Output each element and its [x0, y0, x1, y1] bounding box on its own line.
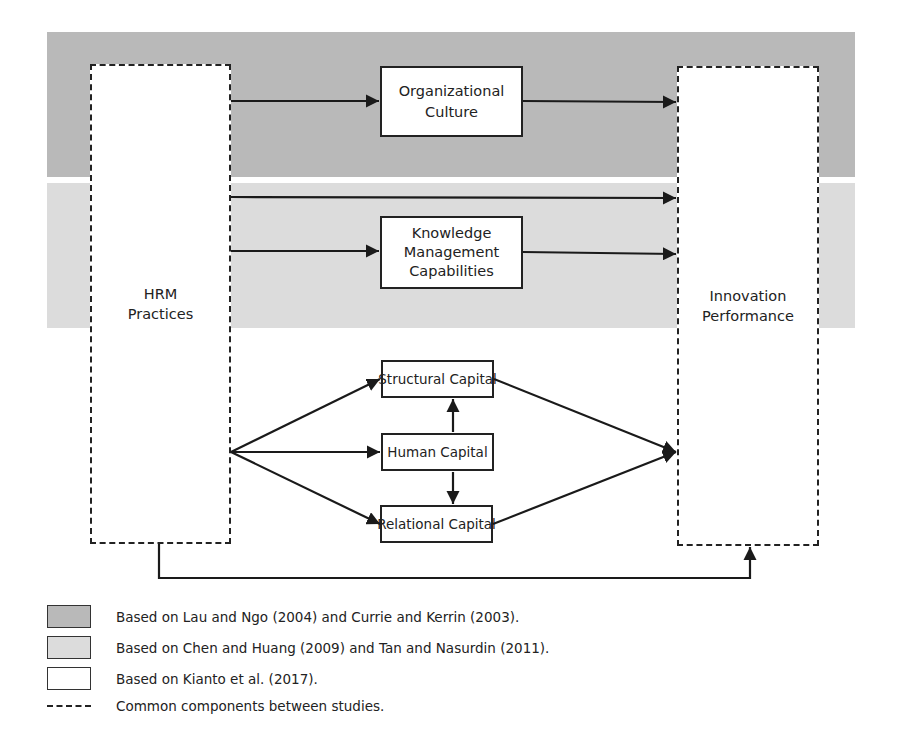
- legend-swatch-light-gray: [47, 636, 91, 659]
- legend: Based on Lau and Ngo (2004) and Currie a…: [47, 604, 549, 721]
- arrow-km-to-innovation: [523, 252, 676, 254]
- arrow-culture-to-innovation: [523, 101, 676, 102]
- legend-dashed-line-sample: [47, 705, 91, 707]
- legend-item-dark-gray: Based on Lau and Ngo (2004) and Currie a…: [47, 604, 549, 629]
- legend-text: Common components between studies.: [116, 698, 384, 714]
- legend-item-white: Based on Kianto et al. (2017).: [47, 666, 549, 691]
- arrow-hrm-to-structural: [231, 379, 380, 452]
- arrow-structural-to-innovation: [494, 379, 676, 452]
- arrow-hrm-to-innovation-direct: [231, 197, 676, 198]
- arrow-hrm-to-relational: [231, 452, 380, 524]
- legend-text: Based on Kianto et al. (2017).: [116, 671, 318, 687]
- legend-item-dashed: Common components between studies.: [47, 697, 549, 715]
- arrow-hrm-to-innovation-loop: [159, 544, 750, 578]
- legend-swatch-dark-gray: [47, 605, 91, 628]
- legend-text: Based on Lau and Ngo (2004) and Currie a…: [116, 609, 519, 625]
- legend-swatch-white: [47, 667, 91, 690]
- arrow-relational-to-innovation: [493, 452, 676, 524]
- legend-item-light-gray: Based on Chen and Huang (2009) and Tan a…: [47, 635, 549, 660]
- legend-text: Based on Chen and Huang (2009) and Tan a…: [116, 640, 549, 656]
